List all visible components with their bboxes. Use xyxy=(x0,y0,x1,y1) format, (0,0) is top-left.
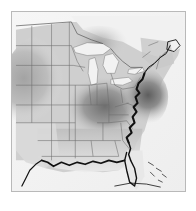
figure-root: Eastern United States grayscale xyxy=(0,0,196,211)
map-canvas xyxy=(12,12,185,191)
map-panel xyxy=(11,11,186,192)
